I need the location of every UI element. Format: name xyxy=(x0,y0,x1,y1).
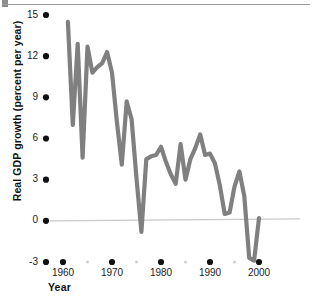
x-tick-dot xyxy=(207,259,213,265)
y-tick-label: 3 xyxy=(16,173,38,184)
x-tick-label: 2000 xyxy=(239,267,279,278)
y-tick-label: -3 xyxy=(16,256,38,267)
x-tick-label: 1980 xyxy=(141,267,181,278)
zero-line xyxy=(50,219,300,221)
zero-baseline-group xyxy=(50,219,300,221)
x-tick-dot xyxy=(256,259,262,265)
x-minor-tick-dot xyxy=(184,261,187,264)
y-tick-label: 12 xyxy=(16,50,38,61)
x-tick-label: 1970 xyxy=(92,267,132,278)
x-minor-tick-dot xyxy=(233,261,236,264)
y-tick-label: 6 xyxy=(16,132,38,143)
x-minor-tick-dot xyxy=(135,261,138,264)
x-minor-tick-dot xyxy=(86,261,89,264)
y-tick-label: 15 xyxy=(16,9,38,20)
x-tick-dot xyxy=(158,259,164,265)
y-tick-label: 9 xyxy=(16,91,38,102)
y-tick-dot xyxy=(43,94,49,100)
y-tick-label: 0 xyxy=(16,214,38,225)
x-tick-label: 1960 xyxy=(43,267,83,278)
y-tick-dot-group xyxy=(43,12,49,265)
gdp-growth-line xyxy=(68,22,259,261)
x-tick-dot xyxy=(60,259,66,265)
y-tick-dot xyxy=(43,12,49,18)
x-tick-dot-group xyxy=(60,259,262,265)
y-tick-dot xyxy=(43,177,49,183)
y-tick-dot xyxy=(43,135,49,141)
chart-figure: Real GDP growth (percent per year) Year … xyxy=(0,0,312,301)
y-tick-dot xyxy=(43,53,49,59)
y-tick-dot xyxy=(43,218,49,224)
chart-plot-area xyxy=(0,0,312,301)
x-tick-label: 1990 xyxy=(190,267,230,278)
x-tick-dot xyxy=(109,259,115,265)
y-tick-dot xyxy=(43,259,49,265)
